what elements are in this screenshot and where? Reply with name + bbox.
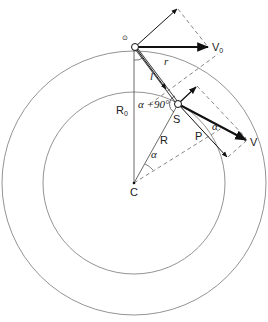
label-r0: R0 <box>116 104 128 117</box>
angle-arc-c <box>145 164 153 170</box>
v0-component-arrow <box>135 9 177 47</box>
pivot-mark: ⊙ <box>122 34 128 41</box>
label-r: r <box>164 55 169 67</box>
r-line <box>134 104 178 183</box>
angle-arc-l <box>134 58 143 60</box>
label-P: P <box>195 130 202 142</box>
top-pivot <box>132 44 139 51</box>
label-alpha-c: α <box>151 148 157 160</box>
label-alpha-p: α <box>212 120 218 132</box>
s-pivot <box>175 101 182 108</box>
v-lower-dashed <box>228 141 246 157</box>
c-p-dashed <box>134 128 222 183</box>
label-v0: V0 <box>212 41 223 54</box>
v-tangent-arrow <box>178 104 227 157</box>
label-l: l <box>150 70 153 82</box>
arm-arrow <box>135 47 166 89</box>
label-v: V <box>250 136 258 148</box>
label-s: S <box>173 113 180 125</box>
label-c: C <box>130 186 138 198</box>
center-point <box>133 182 136 185</box>
label-alpha-plus-90: α +90° <box>138 98 170 110</box>
label-R: R <box>160 134 168 146</box>
v0-parallelogram-dashed <box>178 9 208 47</box>
rotor-velocity-diagram: r V0 ⊙ l R0 α +90° V S R P α α C <box>0 0 268 322</box>
s-dashed-right <box>197 86 246 138</box>
